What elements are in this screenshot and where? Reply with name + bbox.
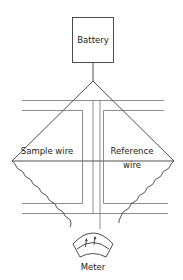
battery: Battery bbox=[73, 18, 114, 63]
battery-label: Battery bbox=[77, 35, 108, 45]
meter-needle-right-tip-icon bbox=[94, 236, 97, 239]
bridge-circuit-diagram: Battery Sample wire Reference wire Meter bbox=[0, 0, 183, 280]
meter: Meter bbox=[73, 233, 113, 272]
meter-body bbox=[73, 233, 113, 257]
meter-scale-arc bbox=[77, 243, 109, 250]
sample-wire-label: Sample wire bbox=[21, 146, 73, 156]
meter-needle-left-tip-icon bbox=[85, 238, 88, 241]
sample-wire-coil bbox=[12, 161, 71, 227]
reference-wire-label-line2: wire bbox=[123, 160, 141, 170]
reference-wire-label-line1: Reference bbox=[111, 146, 154, 156]
tank-lower-lines bbox=[22, 204, 168, 214]
meter-label: Meter bbox=[81, 262, 106, 272]
tank-upper-lines bbox=[22, 101, 164, 230]
